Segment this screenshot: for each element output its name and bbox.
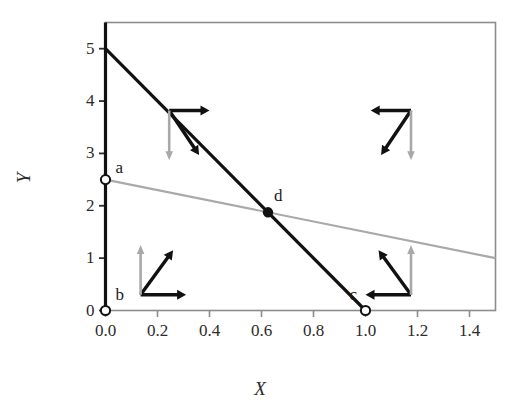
x-tick-label: 0.8 (303, 321, 324, 341)
lower-right-cluster-gray-up-arrow-head (407, 245, 415, 254)
lower-left-cluster-gray-up-arrow-head (137, 245, 145, 254)
lower-right-cluster-black-up-left-arrow-shaft (383, 256, 411, 294)
y-tick-label: 1 (86, 248, 95, 268)
x-tick-label: 0.0 (95, 321, 116, 341)
data-point-a (101, 175, 110, 184)
upper-left-cluster-black-down-right-arrow-shaft (169, 110, 195, 148)
x-tick-label: 1.4 (459, 321, 480, 341)
upper-right-cluster-black-down-left-arrow-shaft (385, 110, 411, 148)
x-tick-label: 1.2 (407, 321, 428, 341)
lower-left-cluster-black-up-right-arrow-shaft (141, 256, 169, 294)
y-tick-label: 4 (86, 91, 95, 111)
y-axis-title: Y (13, 173, 35, 184)
lower-left-cluster-black-right-arrow-head (177, 290, 186, 300)
point-label-c: c (350, 285, 358, 305)
y-tick-label: 5 (86, 39, 95, 59)
y-tick-label: 0 (86, 301, 95, 321)
point-label-d: d (274, 186, 283, 206)
series-line-steep-black-line (106, 49, 366, 311)
plot-frame (106, 23, 496, 311)
point-label-a: a (116, 158, 124, 178)
lower-right-cluster-black-left-arrow-head (366, 290, 375, 300)
x-tick-label: 0.2 (147, 321, 168, 341)
upper-right-cluster-gray-down-arrow-head (407, 151, 415, 160)
point-label-b: b (116, 285, 125, 305)
upper-left-cluster-black-right-arrow-head (201, 106, 210, 116)
chart-figure: 0.00.20.40.60.81.01.21.4012345abcdXY (0, 0, 520, 415)
data-point-d (263, 207, 273, 217)
data-point-b (101, 306, 110, 315)
upper-right-cluster-black-left-arrow-head (371, 106, 380, 116)
y-tick-label: 2 (86, 196, 95, 216)
x-axis-title: X (254, 378, 266, 400)
x-tick-label: 1.0 (355, 321, 376, 341)
plot-canvas (0, 0, 520, 415)
x-tick-label: 0.6 (251, 321, 272, 341)
y-tick-label: 3 (86, 143, 95, 163)
data-point-c (361, 306, 370, 315)
x-tick-label: 0.4 (199, 321, 220, 341)
upper-left-cluster-gray-down-arrow-head (165, 151, 173, 160)
